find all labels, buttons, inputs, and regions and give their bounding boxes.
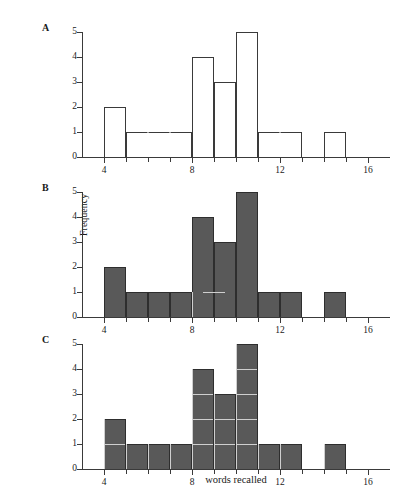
x-tick-16: [368, 158, 369, 163]
bar-11-12: [258, 292, 280, 317]
cell-divider-h: [237, 369, 257, 370]
bar-14-15: [324, 292, 346, 317]
bar-6-7: [148, 132, 170, 157]
cell-divider-h: [193, 444, 213, 445]
y-tick-label-2: 2: [63, 262, 77, 271]
bar-11-12: [258, 444, 280, 469]
bar-4-5: [104, 107, 126, 157]
y-tick-label-1: 1: [63, 127, 77, 136]
x-tick-minor-10: [236, 158, 237, 162]
x-tick-12: [280, 158, 281, 163]
panel-b: B Frequency 012345 481216: [0, 170, 415, 330]
x-tick-8: [192, 158, 193, 163]
bar-14-15: [324, 444, 346, 469]
cell-divider-v: [126, 444, 127, 469]
y-tick-label-3: 3: [63, 77, 77, 86]
cell-divider-h: [237, 444, 257, 445]
bars-c: [82, 340, 390, 470]
x-tick-minor-11: [258, 158, 259, 162]
x-tick-minor-6: [148, 158, 149, 162]
bar-11-12: [258, 132, 280, 157]
y-tick-label-4: 4: [63, 52, 77, 61]
plot-area-c: 012345 481216: [82, 340, 390, 470]
x-axis-label: words recalled: [82, 474, 390, 485]
bar-5-6: [126, 444, 148, 469]
cell-divider-v: [324, 444, 325, 469]
bar-10-11: [236, 344, 258, 469]
panel-a: A 012345 481216: [0, 10, 415, 170]
bar-7-8: [170, 132, 192, 157]
bar-10-11: [236, 192, 258, 317]
bar-12-13: [280, 444, 302, 469]
bar-4-5: [104, 267, 126, 317]
cell-divider-v: [104, 419, 105, 469]
x-tick-minor-13: [302, 158, 303, 162]
bar-9-10: [214, 242, 236, 317]
cell-divider-v: [214, 394, 215, 469]
x-tick-minor-9: [214, 158, 215, 162]
figure-three-histograms: A 012345 481216 B Frequency 012345 48121…: [0, 0, 415, 492]
bar-5-6: [126, 132, 148, 157]
cell-divider-h: [193, 419, 213, 420]
bar-7-8: [170, 292, 192, 317]
cell-divider-h: [203, 292, 225, 293]
x-tick-minor-7: [170, 158, 171, 162]
plot-area-a: 012345 481216: [82, 28, 390, 158]
y-tick-label-4: 4: [63, 364, 77, 373]
cell-divider-v: [258, 444, 259, 469]
bar-10-11: [236, 32, 258, 157]
bar-14-15: [324, 132, 346, 157]
cell-divider-v: [170, 444, 171, 469]
y-tick-label-0: 0: [63, 152, 77, 161]
cell-divider-v: [148, 444, 149, 469]
plot-area-b: Frequency 012345 481216: [82, 188, 390, 318]
cell-divider-h: [105, 444, 125, 445]
cell-divider-v: [192, 369, 193, 469]
bar-9-10: [214, 394, 236, 469]
cell-divider-h: [215, 444, 235, 445]
y-tick-label-0: 0: [63, 464, 77, 473]
bar-6-7: [148, 292, 170, 317]
y-tick-label-0: 0: [63, 312, 77, 321]
bars-a: [82, 28, 390, 158]
bars-b: [82, 188, 390, 318]
panel-c: C 012345 481216 words recalled: [0, 322, 415, 482]
cell-divider-v: [192, 292, 193, 317]
cell-divider-h: [193, 394, 213, 395]
bar-12-13: [280, 292, 302, 317]
x-tick-4: [104, 158, 105, 163]
panel-letter-b: B: [42, 182, 49, 193]
cell-divider-v: [236, 344, 237, 469]
bar-8-9: [192, 57, 214, 157]
y-tick-label-5: 5: [63, 27, 77, 36]
y-tick-label-1: 1: [63, 439, 77, 448]
cell-divider-h: [215, 419, 235, 420]
y-tick-label-4: 4: [63, 212, 77, 221]
y-tick-label-1: 1: [63, 287, 77, 296]
x-tick-minor-14: [324, 158, 325, 162]
cell-divider-v: [280, 444, 281, 469]
panel-letter-c: C: [42, 334, 50, 345]
cell-divider-h: [237, 419, 257, 420]
y-tick-label-3: 3: [63, 389, 77, 398]
bar-9-10: [214, 82, 236, 157]
x-tick-minor-15: [346, 158, 347, 162]
panel-letter-a: A: [42, 22, 50, 33]
y-tick-label-5: 5: [63, 339, 77, 348]
y-tick-label-2: 2: [63, 414, 77, 423]
x-tick-minor-5: [126, 158, 127, 162]
bar-8-9: [192, 217, 214, 317]
y-tick-label-2: 2: [63, 102, 77, 111]
bar-6-7: [148, 444, 170, 469]
y-tick-label-3: 3: [63, 237, 77, 246]
cell-divider-h: [237, 394, 257, 395]
bar-7-8: [170, 444, 192, 469]
bar-5-6: [126, 292, 148, 317]
y-tick-label-5: 5: [63, 187, 77, 196]
bar-12-13: [280, 132, 302, 157]
